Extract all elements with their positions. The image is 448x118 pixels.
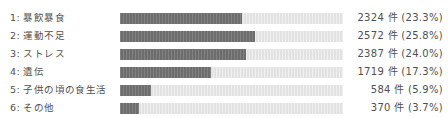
chart-row: 6: その他 370 件 (3.7%): [0, 99, 448, 117]
bar-fill: [120, 85, 151, 96]
row-label: 3: ストレス: [10, 45, 65, 63]
bar-fill: [120, 49, 246, 60]
row-label: 6: その他: [10, 99, 55, 117]
row-value: 584 件 (5.9%): [371, 81, 443, 99]
bar-track: [120, 13, 343, 24]
bar-fill: [120, 13, 242, 24]
row-value: 1719 件 (17.3%): [357, 63, 443, 81]
chart-row: 5: 子供の頃の食生活 584 件 (5.9%): [0, 81, 448, 99]
bar-track: [120, 103, 343, 114]
chart-row: 2: 運動不足 2572 件 (25.8%): [0, 27, 448, 45]
row-label: 5: 子供の頃の食生活: [10, 81, 107, 99]
row-value: 2387 件 (24.0%): [357, 45, 443, 63]
bar-fill: [120, 31, 255, 42]
chart-row: 1: 暴飲暴食 2324 件 (23.3%): [0, 9, 448, 27]
survey-bar-chart: 1: 暴飲暴食 2324 件 (23.3%) 2: 運動不足 2572 件 (2…: [0, 0, 448, 118]
chart-row: 3: ストレス 2387 件 (24.0%): [0, 45, 448, 63]
row-label: 4: 遺伝: [10, 63, 44, 81]
bar-fill: [120, 103, 139, 114]
bar-track: [120, 49, 343, 60]
row-label: 2: 運動不足: [10, 27, 65, 45]
chart-row: 4: 遺伝 1719 件 (17.3%): [0, 63, 448, 81]
bar-track: [120, 85, 343, 96]
bar-track: [120, 67, 343, 78]
row-value: 2572 件 (25.8%): [357, 27, 443, 45]
bar-track: [120, 31, 343, 42]
row-value: 370 件 (3.7%): [371, 99, 443, 117]
row-value: 2324 件 (23.3%): [357, 9, 443, 27]
row-label: 1: 暴飲暴食: [10, 9, 65, 27]
bar-fill: [120, 67, 211, 78]
